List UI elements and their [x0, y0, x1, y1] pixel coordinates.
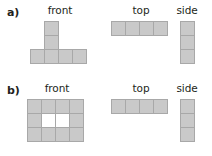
cube-cell: [180, 113, 195, 128]
cube-grid-a-side: [180, 21, 195, 66]
cube-cell: [139, 21, 154, 36]
cube-cell: [180, 35, 195, 50]
cube-cell: [180, 99, 195, 114]
cube-cell: [44, 49, 59, 64]
cube-grid-a-top: [111, 21, 171, 36]
figure-part-a: a) front top side: [0, 0, 212, 78]
cube-cell: [27, 99, 42, 114]
cube-cell: [125, 99, 140, 114]
cube-cell: [111, 21, 126, 36]
cube-cell: [41, 127, 56, 142]
cube-cell: [69, 99, 84, 114]
cube-cell: [69, 127, 84, 142]
figure-part-b: b) front top side: [0, 78, 212, 156]
cube-grid-a-front: [30, 21, 90, 66]
view-label-a-top: top: [133, 4, 150, 16]
cube-cell: [30, 49, 45, 64]
cube-cell: [44, 21, 59, 36]
cube-cell: [139, 99, 154, 114]
view-label-b-top: top: [133, 82, 150, 94]
cube-cell-hollow: [41, 113, 56, 128]
view-label-b-front: front: [45, 82, 69, 94]
part-label-a: a): [7, 6, 19, 19]
cube-cell-hollow: [55, 113, 70, 128]
cube-cell: [72, 49, 87, 64]
cube-cell: [41, 99, 56, 114]
cube-cell: [27, 127, 42, 142]
view-label-a-side: side: [176, 4, 197, 16]
cube-cell: [55, 127, 70, 142]
cube-grid-b-top: [111, 99, 171, 114]
cube-cell: [180, 127, 195, 142]
cube-cell: [125, 21, 140, 36]
cube-cell: [153, 99, 168, 114]
cube-cell: [180, 49, 195, 64]
cube-grid-b-side: [180, 99, 195, 144]
cube-cell: [69, 113, 84, 128]
cube-cell: [180, 21, 195, 36]
cube-cell: [44, 35, 59, 50]
view-label-a-front: front: [48, 4, 72, 16]
part-label-b: b): [7, 84, 20, 97]
cube-cell: [153, 21, 168, 36]
cube-cell: [27, 113, 42, 128]
view-label-b-side: side: [176, 82, 197, 94]
cube-grid-b-front: [27, 99, 87, 144]
cube-cell: [111, 99, 126, 114]
cube-cell: [55, 99, 70, 114]
cube-cell: [58, 49, 73, 64]
orthographic-views-figure: a) front top side b) front top side: [0, 0, 212, 156]
